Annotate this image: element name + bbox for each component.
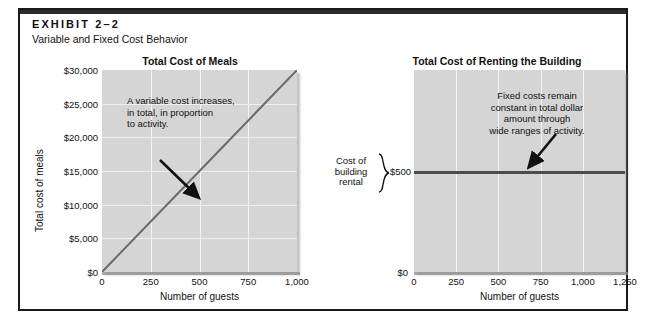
ytick-meals-0: $0 <box>20 267 98 278</box>
x-axis-title-rent: Number of guests <box>414 291 625 302</box>
chart-title-rent: Total Cost of Renting the Building <box>372 55 622 67</box>
plot-area-rent: Fixed costs remain constant in total dol… <box>414 70 625 272</box>
xtick-rent-1000: 1,000 <box>571 276 595 287</box>
xtick-meals-250: 250 <box>143 276 159 287</box>
xtick-meals-750: 750 <box>240 276 256 287</box>
xtick-meals-500: 500 <box>192 276 208 287</box>
exhibit-header: EXHIBIT 2–2 Variable and Fixed Cost Beha… <box>32 18 188 46</box>
ytick-meals-10000: $10,000 <box>20 199 98 210</box>
annotation-arrow-rent-icon <box>526 132 568 174</box>
xtick-rent-250: 250 <box>448 276 464 287</box>
annotation-rent-line-4: wide ranges of activity. <box>462 125 612 137</box>
exhibit-top-rule <box>20 10 626 14</box>
ytick-meals-5000: $5,000 <box>20 233 98 244</box>
xtick-meals-1000: 1,000 <box>285 276 309 287</box>
x-axis-title-meals: Number of guests <box>102 291 297 302</box>
exhibit-subtitle: Variable and Fixed Cost Behavior <box>32 32 188 46</box>
bracket-label-line-3: rental <box>326 177 376 188</box>
xtick-rent-500: 500 <box>490 276 506 287</box>
x-axis-baseline-meals <box>102 272 300 275</box>
bracket-label-line-1: Cost of <box>326 156 376 167</box>
plot-area-meals: A variable cost increases, in total, in … <box>102 70 297 272</box>
annotation-meals-line-3: to activity. <box>127 118 235 130</box>
ytick-rent-0: $0 <box>350 267 408 278</box>
annotation-meals: A variable cost increases, in total, in … <box>127 95 235 130</box>
annotation-meals-line-2: in total, in proportion <box>127 107 235 119</box>
annotation-arrow-meals-icon <box>158 158 204 204</box>
annotation-rent-line-3: amount through <box>462 113 612 125</box>
ytick-meals-30000: $30,000 <box>20 65 98 76</box>
xtick-rent-0: 0 <box>411 276 416 287</box>
ytick-meals-15000: $15,000 <box>20 166 98 177</box>
annotation-rent: Fixed costs remain constant in total dol… <box>462 90 612 136</box>
xtick-rent-750: 750 <box>533 276 549 287</box>
curly-bracket-icon <box>378 153 390 193</box>
ytick-meals-20000: $20,000 <box>20 132 98 143</box>
exhibit-frame: EXHIBIT 2–2 Variable and Fixed Cost Beha… <box>18 8 628 311</box>
exhibit-label: EXHIBIT 2–2 <box>32 18 188 31</box>
annotation-rent-line-1: Fixed costs remain <box>462 90 612 102</box>
annotation-rent-line-2: constant in total dollar <box>462 102 612 114</box>
ytick-meals-25000: $25,000 <box>20 98 98 109</box>
ytick-rent-500: $500 <box>390 166 411 177</box>
bracket-label-rent: Cost of building rental <box>326 156 376 188</box>
x-axis-baseline-rent <box>414 272 628 275</box>
fixed-cost-line <box>414 171 625 174</box>
annotation-meals-line-1: A variable cost increases, <box>127 95 235 107</box>
y-axis-title-meals: Total cost of meals <box>34 149 45 232</box>
chart-title-meals: Total Cost of Meals <box>80 55 300 67</box>
xtick-rent-1250: 1,250 <box>613 276 637 287</box>
xtick-meals-0: 0 <box>99 276 104 287</box>
